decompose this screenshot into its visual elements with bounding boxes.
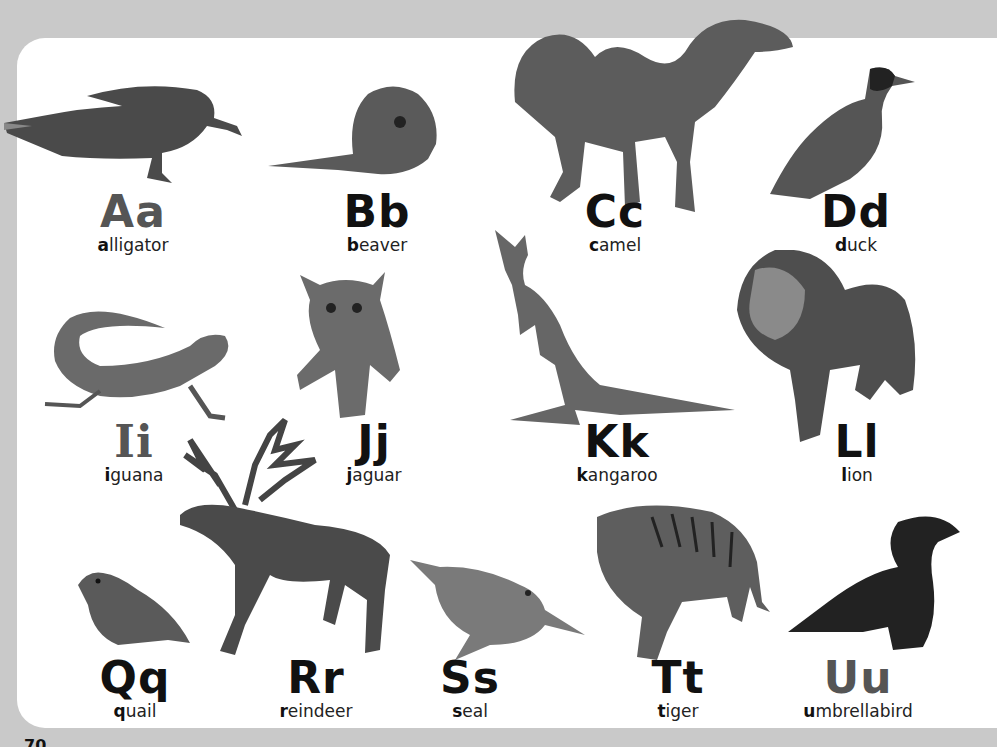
letter-pair: Ll xyxy=(834,420,879,464)
letter-pair: Tt xyxy=(651,656,704,700)
letter-pair: Cc xyxy=(585,190,645,234)
camel-icon xyxy=(505,12,795,217)
letter-pair: Kk xyxy=(576,420,657,464)
seal-icon xyxy=(410,555,590,660)
animal-word: umbrellabird xyxy=(803,700,912,722)
word-initial: d xyxy=(835,235,847,255)
letter-pair: Ss xyxy=(440,656,500,700)
letter-pair: Uu xyxy=(803,656,912,700)
animal-word: seal xyxy=(440,700,500,722)
lion-icon xyxy=(735,250,920,445)
word-rest: guana xyxy=(110,465,163,485)
word-rest: aguar xyxy=(352,465,401,485)
tiger-icon xyxy=(592,502,772,662)
letter-pair: Aa xyxy=(98,190,169,234)
animal-word: tiger xyxy=(651,700,704,722)
animal-word: reindeer xyxy=(279,700,352,722)
word-rest: uail xyxy=(126,701,157,721)
iguana-icon xyxy=(40,306,235,426)
entry-camel: Cc camel xyxy=(585,190,645,256)
word-rest: uck xyxy=(847,235,877,255)
entry-duck: Dd duck xyxy=(821,190,891,256)
letter-pair: Bb xyxy=(343,190,410,234)
entry-beaver: Bb beaver xyxy=(343,190,410,256)
entry-quail: Qq quail xyxy=(100,656,171,722)
letter-pair: Dd xyxy=(821,190,891,234)
word-initial: k xyxy=(576,465,587,485)
word-initial: b xyxy=(347,235,359,255)
word-initial: u xyxy=(803,701,815,721)
page-number: 70 xyxy=(24,738,46,747)
word-rest: ion xyxy=(847,465,873,485)
entry-alligator: Aa alligator xyxy=(98,190,169,256)
quail-icon xyxy=(78,565,196,650)
umbrellabird-icon xyxy=(788,512,963,652)
word-rest: eal xyxy=(462,701,488,721)
animal-word: duck xyxy=(821,234,891,256)
duck-icon xyxy=(770,64,915,204)
entry-iguana: Ii iguana xyxy=(104,420,163,486)
word-rest: angaroo xyxy=(588,465,658,485)
animal-word: jaguar xyxy=(346,464,401,486)
animal-word: lion xyxy=(834,464,879,486)
word-rest: eindeer xyxy=(288,701,353,721)
jaguar-icon xyxy=(295,270,405,420)
entry-tiger: Tt tiger xyxy=(651,656,704,722)
word-initial: q xyxy=(114,701,126,721)
word-rest: amel xyxy=(599,235,641,255)
word-rest: iger xyxy=(666,701,699,721)
animal-word: beaver xyxy=(343,234,410,256)
word-initial: c xyxy=(589,235,599,255)
letter-pair: Ii xyxy=(104,420,163,464)
letter-pair: Jj xyxy=(346,420,401,464)
letter-pair: Qq xyxy=(100,656,171,700)
animal-word: alligator xyxy=(98,234,169,256)
alligator-icon xyxy=(2,78,247,188)
entry-seal: Ss seal xyxy=(440,656,500,722)
word-rest: eaver xyxy=(359,235,407,255)
word-initial: a xyxy=(98,235,109,255)
letter-pair: Rr xyxy=(279,656,352,700)
beaver-icon xyxy=(268,84,443,179)
entry-umbrellabird: Uu umbrellabird xyxy=(803,656,912,722)
animal-word: kangaroo xyxy=(576,464,657,486)
entry-lion: Ll lion xyxy=(834,420,879,486)
word-rest: lligator xyxy=(109,235,168,255)
entry-reindeer: Rr reindeer xyxy=(279,656,352,722)
animal-word: camel xyxy=(585,234,645,256)
word-initial: t xyxy=(657,701,665,721)
entry-jaguar: Jj jaguar xyxy=(346,420,401,486)
entry-kangaroo: Kk kangaroo xyxy=(576,420,657,486)
animal-word: quail xyxy=(100,700,171,722)
animal-word: iguana xyxy=(104,464,163,486)
word-initial: s xyxy=(452,701,462,721)
word-rest: mbrellabird xyxy=(815,701,912,721)
